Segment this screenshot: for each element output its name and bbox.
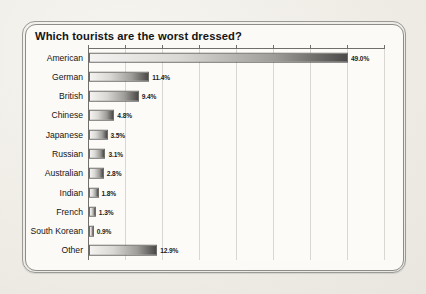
bar-value-label: 2.8% bbox=[107, 170, 122, 177]
axis-tick bbox=[384, 45, 385, 49]
bar bbox=[89, 129, 108, 140]
bar-category-label: South Korean bbox=[30, 226, 83, 236]
bar-value-label: 0.9% bbox=[97, 228, 112, 235]
page-title: Which tourists are the worst dressed? bbox=[35, 30, 242, 42]
bar-value-label: 4.8% bbox=[117, 112, 132, 119]
bar-value-label: 9.4% bbox=[142, 93, 157, 100]
bar bbox=[89, 245, 157, 256]
bar-row: Chinese4.8% bbox=[88, 106, 384, 125]
bar-row: German11.4% bbox=[88, 67, 384, 86]
bar bbox=[89, 110, 114, 121]
bar-category-label: Australian bbox=[45, 168, 83, 178]
bar-category-label: German bbox=[52, 72, 83, 82]
bar-category-label: French bbox=[56, 207, 83, 217]
bar-value-label: 3.1% bbox=[108, 150, 123, 157]
bar-row: Russian3.1% bbox=[88, 144, 384, 163]
bar bbox=[89, 52, 348, 63]
bar-chart-plot-area: American49.0%German11.4%British9.4%Chine… bbox=[88, 48, 384, 260]
bar bbox=[89, 187, 99, 198]
bar bbox=[89, 91, 139, 102]
bar-value-label: 49.0% bbox=[351, 54, 369, 61]
bar bbox=[89, 168, 104, 179]
bar-category-label: Chinese bbox=[51, 110, 83, 120]
bar-row: French1.3% bbox=[88, 202, 384, 221]
bar-value-label: 11.4% bbox=[152, 73, 170, 80]
bar-value-label: 1.8% bbox=[102, 189, 117, 196]
bar bbox=[89, 72, 149, 83]
bar bbox=[89, 207, 96, 218]
bar-row: British9.4% bbox=[88, 87, 384, 106]
bar bbox=[89, 226, 94, 237]
bar-row: American49.0% bbox=[88, 48, 384, 67]
bar-category-label: Japanese bbox=[46, 130, 83, 140]
gridline bbox=[384, 48, 385, 260]
bar-value-label: 12.9% bbox=[160, 247, 178, 254]
bar-value-label: 3.5% bbox=[111, 131, 126, 138]
bar-row: Other12.9% bbox=[88, 241, 384, 260]
bar bbox=[89, 149, 105, 160]
bar-category-label: Indian bbox=[60, 188, 83, 198]
bar-row: Japanese3.5% bbox=[88, 125, 384, 144]
bar-value-label: 1.3% bbox=[99, 208, 114, 215]
bar-category-label: Russian bbox=[52, 149, 83, 159]
bar-category-label: Other bbox=[62, 245, 84, 255]
bar-row: Indian1.8% bbox=[88, 183, 384, 202]
bar-category-label: American bbox=[47, 53, 83, 63]
bar-row: South Korean0.9% bbox=[88, 221, 384, 240]
bar-category-label: British bbox=[59, 91, 83, 101]
bar-row: Australian2.8% bbox=[88, 164, 384, 183]
